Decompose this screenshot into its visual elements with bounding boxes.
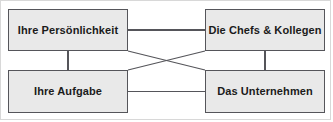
node-label: Ihre Aufgabe [34,85,102,97]
node-label: Das Unternehmen [217,85,313,97]
node-ihre-persoenlichkeit[interactable]: Ihre Persönlichkeit [8,9,128,51]
node-label: Ihre Persönlichkeit [18,24,118,36]
node-ihre-aufgabe[interactable]: Ihre Aufgabe [8,70,128,113]
node-label: Die Chefs & Kollegen [208,24,321,36]
node-das-unternehmen[interactable]: Das Unternehmen [205,70,325,113]
node-die-chefs-und-kollegen[interactable]: Die Chefs & Kollegen [205,9,325,51]
diagram-canvas: Ihre Persönlichkeit Die Chefs & Kollegen… [0,0,333,122]
